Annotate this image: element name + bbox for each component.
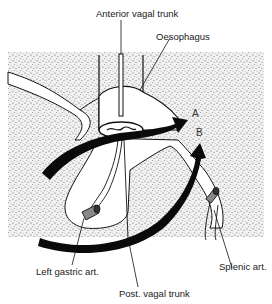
label-arrow-b: B <box>196 127 203 138</box>
label-anterior-vagal-trunk: Anterior vagal trunk <box>96 8 179 19</box>
label-arrow-a: A <box>192 108 199 119</box>
label-oesophagus: Oesophagus <box>156 31 210 42</box>
label-left-gastric-art: Left gastric art. <box>36 266 99 277</box>
diagram-canvas: Anterior vagal trunk Oesophagus A B Left… <box>0 0 272 304</box>
anterior-vagal-trunk <box>119 54 123 116</box>
leader-post-vagal <box>128 238 138 287</box>
label-splenic-art: Splenic art. <box>219 261 267 272</box>
label-post-vagal-trunk: Post. vagal trunk <box>119 288 190 299</box>
